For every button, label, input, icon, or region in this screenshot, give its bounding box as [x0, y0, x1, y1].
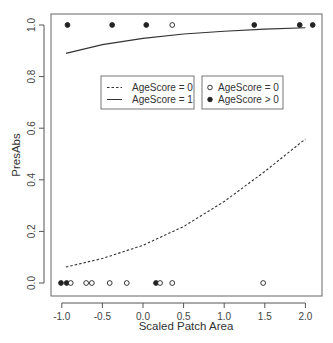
plot-frame	[51, 14, 322, 296]
y-axis-title: PresAbs	[10, 133, 22, 177]
open-point	[84, 281, 89, 286]
y-tick-label: 1.0	[26, 18, 37, 32]
filled-point	[310, 23, 315, 28]
fitted-curves	[66, 28, 306, 267]
open-circle-icon	[208, 85, 213, 90]
open-point	[89, 281, 94, 286]
y-tick-label: 0.0	[26, 276, 37, 290]
x-tick-label: -0.5	[94, 311, 112, 322]
legend-lines-label-1: AgeScore = 1	[132, 94, 193, 105]
filled-point	[59, 281, 64, 286]
x-axis-title: Scaled Patch Area	[139, 320, 234, 332]
filled-circle-icon	[208, 97, 213, 102]
open-point	[158, 281, 163, 286]
y-tick-label: 0.6	[26, 121, 37, 135]
solid-curve	[66, 28, 306, 54]
open-point	[107, 281, 112, 286]
legend-points-label-1: AgeScore > 0	[218, 94, 279, 105]
y-tick-label: 0.2	[26, 224, 37, 238]
y-axis: 0.00.20.40.60.81.0	[26, 18, 44, 290]
dashed-curve	[66, 139, 306, 267]
y-tick-label: 0.4	[26, 172, 37, 186]
open-point	[68, 281, 73, 286]
x-tick-label: 2.0	[298, 311, 312, 322]
x-tick-label: -1.0	[53, 311, 71, 322]
open-point	[124, 281, 129, 286]
legend-lines-label-0: AgeScore = 0	[132, 82, 193, 93]
filled-point	[144, 23, 149, 28]
y-tick-label: 0.8	[26, 69, 37, 83]
legend-lines: AgeScore = 0 AgeScore = 1	[101, 76, 194, 109]
chart: -1.0-0.50.00.51.01.52.0 0.00.20.40.60.81…	[0, 0, 333, 343]
data-points	[59, 23, 316, 286]
legend-points-label-0: AgeScore = 0	[218, 82, 279, 93]
open-point	[170, 23, 175, 28]
open-point	[261, 281, 266, 286]
legend-points: AgeScore = 0 AgeScore > 0	[202, 76, 283, 109]
x-tick-label: 1.5	[258, 311, 272, 322]
filled-point	[110, 23, 115, 28]
filled-point	[252, 23, 257, 28]
filled-point	[65, 23, 70, 28]
open-point	[170, 281, 175, 286]
filled-point	[297, 23, 302, 28]
